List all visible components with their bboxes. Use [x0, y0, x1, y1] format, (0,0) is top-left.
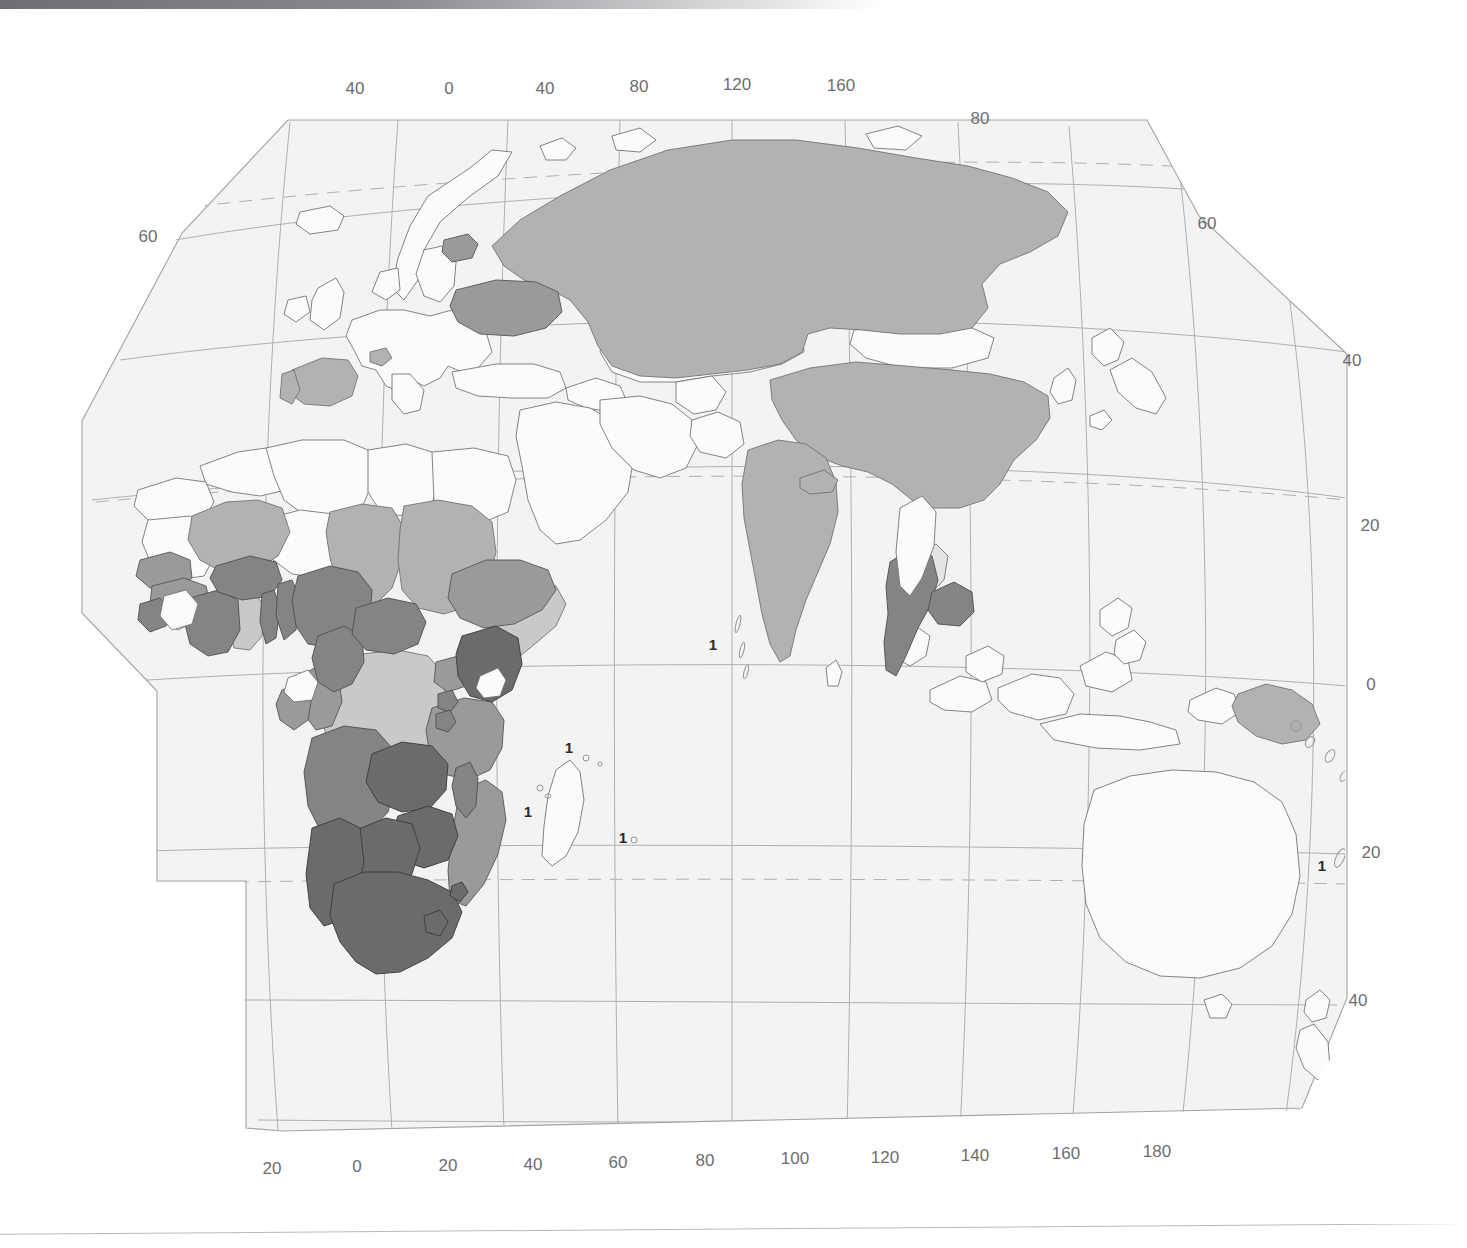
bottom-tick-7: 120 — [871, 1148, 899, 1167]
bottom-tick-6: 100 — [781, 1149, 809, 1168]
right-tick-3: 20 — [1361, 516, 1380, 535]
top-tick-3: 80 — [630, 77, 649, 96]
axis-labels-bottom: 20 0 20 40 60 80 100 120 140 160 180 — [263, 1142, 1172, 1178]
top-tick-5: 160 — [827, 76, 855, 95]
right-tick-5: 20 — [1362, 843, 1381, 862]
annotation-fiji: 1 — [1318, 857, 1326, 874]
region-zambia — [366, 742, 448, 812]
bottom-tick-8: 140 — [961, 1146, 989, 1165]
annotation-comoros: 1 — [524, 803, 532, 820]
bottom-tick-9: 160 — [1052, 1144, 1080, 1163]
top-tick-2: 40 — [536, 79, 555, 98]
axis-labels-left: 60 — [139, 227, 158, 246]
world-map-svg: 40 0 40 80 120 160 20 0 20 40 60 80 100 … — [0, 0, 1467, 1248]
top-tick-0: 40 — [346, 79, 365, 98]
axis-labels-top: 40 0 40 80 120 160 — [346, 75, 856, 98]
annotation-seychelles: 1 — [565, 739, 573, 756]
top-tick-1: 0 — [444, 79, 453, 98]
bottom-tick-4: 60 — [609, 1153, 628, 1172]
annotation-mauritius: 1 — [619, 829, 627, 846]
map-figure: 40 0 40 80 120 160 20 0 20 40 60 80 100 … — [0, 0, 1467, 1248]
right-tick-4: 0 — [1366, 675, 1375, 694]
right-tick-0: 80 — [971, 109, 990, 128]
region-car — [352, 598, 426, 654]
right-tick-6: 40 — [1349, 991, 1368, 1010]
left-tick-0: 60 — [139, 227, 158, 246]
annotation-maldives: 1 — [709, 636, 717, 653]
right-tick-2: 40 — [1343, 351, 1362, 370]
top-tick-4: 120 — [723, 75, 751, 94]
bottom-tick-1: 0 — [352, 1157, 361, 1176]
bottom-tick-10: 180 — [1143, 1142, 1171, 1161]
bottom-tick-2: 20 — [439, 1156, 458, 1175]
right-tick-1: 60 — [1198, 214, 1217, 233]
bottom-tick-3: 40 — [524, 1155, 543, 1174]
bottom-tick-5: 80 — [696, 1151, 715, 1170]
bottom-tick-0: 20 — [263, 1159, 282, 1178]
